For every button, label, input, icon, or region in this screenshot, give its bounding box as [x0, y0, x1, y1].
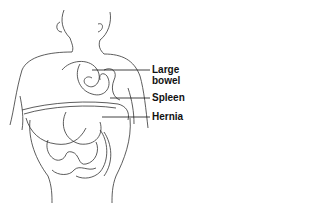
label-large-text: Large: [152, 64, 180, 75]
label-hernia: Hernia: [152, 111, 183, 122]
label-large-bowel: Large bowel: [152, 64, 180, 86]
label-spleen: Spleen: [152, 92, 185, 103]
label-bowel-text: bowel: [152, 75, 180, 86]
